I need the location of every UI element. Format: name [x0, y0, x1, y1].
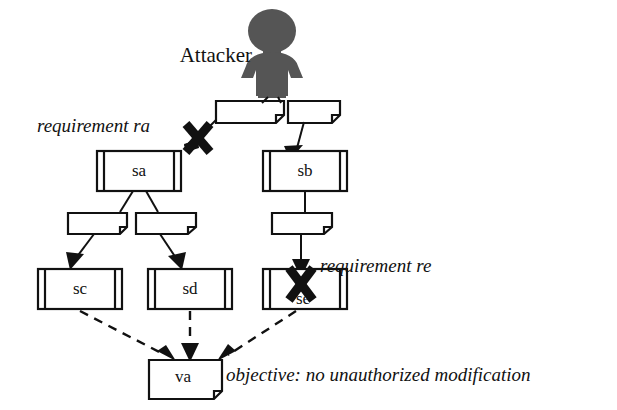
node-sb-label: sb [297, 161, 312, 180]
node-sd: sd [148, 269, 232, 309]
edge-n3-to-sc [66, 234, 94, 270]
edge-sa-to-n4 [146, 191, 158, 212]
node-sa: sa [97, 151, 181, 191]
attack-tree-diagram: Attacker requirement ra [0, 0, 617, 410]
node-sc-label: sc [73, 279, 88, 298]
node-sd-label: sd [182, 279, 198, 298]
node-sc: sc [38, 269, 122, 309]
edge-se-to-va [217, 311, 296, 361]
annotation-objective: objective: no unauthorized modification [226, 364, 530, 385]
attacker-label: Attacker [180, 43, 252, 67]
connector-note-n3 [68, 213, 127, 234]
connector-note-n5 [272, 213, 332, 234]
node-sb: sb [263, 151, 347, 191]
diagram-canvas: Attacker requirement ra [0, 0, 617, 410]
edge-sc-to-va [80, 311, 176, 361]
edge-sd-to-va [181, 311, 199, 362]
annotation-requirement-ra: requirement ra [37, 115, 150, 136]
annotation-requirement-re: requirement re [320, 255, 431, 276]
connector-note-n2 [288, 101, 340, 123]
edge-sa-to-n3 [120, 191, 133, 212]
node-va: va [149, 360, 222, 399]
connector-note-n4 [136, 213, 196, 234]
node-sa-label: sa [132, 161, 147, 180]
connector-note-n1 [216, 101, 284, 123]
edge-n4-to-sd [160, 234, 186, 270]
node-va-label: va [175, 367, 192, 386]
